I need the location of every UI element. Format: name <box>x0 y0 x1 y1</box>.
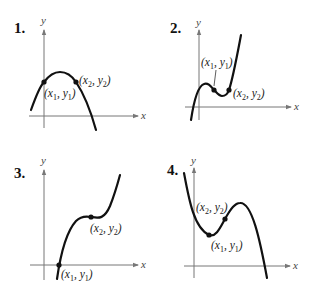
y-axis-label: y <box>40 154 46 166</box>
graph-3: 3. y x (x1, y1) (x2, y2) <box>14 154 146 283</box>
y-axis-label: y <box>40 14 46 26</box>
point-1-marker <box>206 232 211 237</box>
point-2-label: (x2, y2) <box>90 222 122 237</box>
point-2-label: (x2, y2) <box>196 201 228 216</box>
point-1-label: (x1, y1) <box>201 56 233 71</box>
curve <box>184 173 267 278</box>
y-axis-label: y <box>190 154 196 166</box>
graph-1: 1. y x (x1, y1) (x2, y2) <box>14 14 146 130</box>
graph-number: 1. <box>14 20 26 36</box>
point-2-marker <box>222 216 227 221</box>
graph-4: 4. y x (x1, y1) (x2, y2) <box>167 154 298 278</box>
point-1-leader-line <box>214 70 216 86</box>
point-1-marker <box>56 262 61 267</box>
point-2-marker <box>226 87 231 92</box>
point-2-marker <box>88 214 93 219</box>
point-2-label: (x2, y2) <box>233 87 265 102</box>
graph-2: 2. y x (x1, y1) (x2, y2) <box>170 16 299 120</box>
point-1-label: (x1, y1) <box>211 239 243 254</box>
x-axis-label: x <box>292 259 298 271</box>
point-1-marker <box>41 79 46 84</box>
y-axis-label: y <box>195 16 201 28</box>
graphs-figure: 1. y x (x1, y1) (x2, y2) 2. y x (x1, y1)… <box>0 0 320 296</box>
x-axis-label: x <box>293 100 299 112</box>
x-axis-label: x <box>140 109 146 121</box>
point-1-label: (x1, y1) <box>44 87 76 102</box>
point-1-label: (x1, y1) <box>61 268 93 283</box>
graph-number: 2. <box>170 20 182 36</box>
graph-number: 4. <box>167 162 179 178</box>
x-axis-label: x <box>140 258 146 270</box>
point-2-label: (x2, y2) <box>79 74 111 89</box>
point-2-marker <box>73 79 78 84</box>
point-1-marker <box>211 87 216 92</box>
graph-number: 3. <box>14 165 26 181</box>
